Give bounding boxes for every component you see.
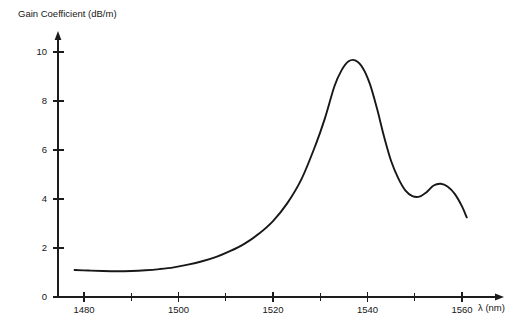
x-tick-label: 1540 [357, 304, 378, 315]
y-tick-label: 0 [42, 291, 47, 302]
x-axis-arrow-icon [495, 294, 504, 301]
x-tick-label: 1520 [262, 304, 283, 315]
gain-coefficient-chart: Gain Coefficient (dB/m) 0246810 14801500… [0, 0, 524, 328]
axes-group [55, 31, 504, 300]
chart-canvas: Gain Coefficient (dB/m) 0246810 14801500… [0, 0, 524, 328]
x-tick-label: 1560 [451, 304, 472, 315]
x-tick-label: 1500 [168, 304, 189, 315]
x-tick-label: 1480 [73, 304, 94, 315]
y-tick-label: 6 [42, 144, 47, 155]
y-tick-label: 4 [42, 193, 47, 204]
x-axis-title: λ (nm) [478, 302, 505, 313]
y-axis-arrow-icon [55, 31, 62, 40]
y-axis-title: Gain Coefficient (dB/m) [18, 8, 117, 19]
y-tick-label: 10 [36, 46, 47, 57]
y-tick-group: 0246810 [36, 46, 63, 302]
gain-curve [75, 60, 467, 271]
y-tick-label: 8 [42, 95, 47, 106]
x-tick-major-group: 14801500152015401560 [73, 292, 472, 315]
y-tick-label: 2 [42, 242, 47, 253]
